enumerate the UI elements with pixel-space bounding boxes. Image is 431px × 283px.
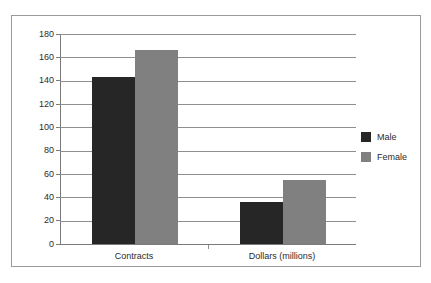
y-tick-label-20: 20 xyxy=(44,216,54,225)
y-tick-label-40: 40 xyxy=(44,193,54,202)
y-tick-label-0: 0 xyxy=(49,240,54,249)
chart-screenshot: 180 160 140 120 100 80 60 40 20 0 xyxy=(0,0,431,283)
legend-label-male: Male xyxy=(377,132,397,142)
male-color-swatch-icon xyxy=(361,132,371,142)
legend-label-female: Female xyxy=(377,152,407,162)
x-axis-label-contracts: Contracts xyxy=(60,251,208,261)
y-tick-label-100: 100 xyxy=(39,123,54,132)
bar-dollars-female[interactable] xyxy=(283,180,326,244)
female-color-swatch-icon xyxy=(361,152,371,162)
y-tick-label-80: 80 xyxy=(44,146,54,155)
x-axis-category-separator xyxy=(208,245,209,249)
bar-contracts-female[interactable] xyxy=(135,50,178,244)
y-tick-label-120: 120 xyxy=(39,100,54,109)
chart-legend: Male Female xyxy=(361,129,423,169)
x-axis-label-dollars: Dollars (millions) xyxy=(208,251,356,261)
y-tick-label-140: 140 xyxy=(39,76,54,85)
gridline-160 xyxy=(60,57,356,58)
legend-item-female[interactable]: Female xyxy=(361,149,423,165)
plot-area xyxy=(60,34,356,244)
y-tick-label-160: 160 xyxy=(39,53,54,62)
y-tick-label-180: 180 xyxy=(39,30,54,39)
gridline-180 xyxy=(60,34,356,35)
bar-contracts-male[interactable] xyxy=(92,77,135,244)
y-tick-label-60: 60 xyxy=(44,170,54,179)
y-axis-tick-labels: 180 160 140 120 100 80 60 40 20 0 xyxy=(26,16,54,268)
legend-item-male[interactable]: Male xyxy=(361,129,423,145)
bar-dollars-male[interactable] xyxy=(240,202,283,244)
chart-frame: 180 160 140 120 100 80 60 40 20 0 xyxy=(11,15,421,267)
